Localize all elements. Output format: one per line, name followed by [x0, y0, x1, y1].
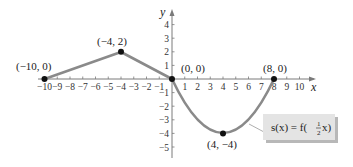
y-tick-label: −1 — [159, 88, 169, 98]
legend-leader-line — [249, 124, 264, 132]
y-tick-label: −2 — [159, 102, 169, 112]
x-tick-label: −9 — [52, 82, 62, 92]
x-tick-label: 7 — [259, 82, 264, 92]
x-tick-label: 3 — [208, 82, 213, 92]
legend-frac-den: 2 — [317, 129, 321, 137]
x-tick-label: −4 — [116, 82, 126, 92]
y-tick-label: −4 — [159, 129, 169, 139]
x-tick-label: −2 — [141, 82, 151, 92]
x-tick-label: 6 — [246, 82, 251, 92]
point-marker — [42, 76, 48, 82]
x-tick-label: −6 — [90, 82, 100, 92]
point-marker — [271, 76, 277, 82]
point-marker — [169, 76, 175, 82]
point-label-8-0: (8, 0) — [263, 62, 287, 75]
y-tick-label: 4 — [164, 20, 169, 30]
x-axis-label: x — [310, 80, 317, 94]
x-tick-label: −8 — [65, 82, 75, 92]
legend-suffix: x) — [322, 121, 332, 134]
legend-frac-num: 1 — [317, 120, 321, 128]
x-tick-label: 5 — [233, 82, 238, 92]
point-label-0-0: (0, 0) — [181, 62, 205, 75]
y-tick-label: −3 — [159, 115, 169, 125]
x-tick-label: 10 — [295, 82, 305, 92]
y-tick-label: 2 — [164, 47, 169, 57]
x-tick-label: 4 — [221, 82, 226, 92]
point-marker — [118, 49, 124, 55]
x-tick-label: −5 — [103, 82, 113, 92]
x-tick-label: 1 — [182, 82, 187, 92]
point-label-4-neg4: (4, −4) — [207, 138, 237, 151]
x-tick-label: 9 — [284, 82, 289, 92]
y-tick-label: −5 — [159, 143, 169, 153]
x-tick-label: −7 — [78, 82, 88, 92]
point-label-neg4-2: (−4, 2) — [97, 35, 127, 48]
y-axis-arrow-icon — [170, 9, 175, 16]
graph-canvas: −10−9−8−7−6−5−4−3−2−112345678910 4321−1−… — [0, 0, 353, 167]
point-marker — [220, 130, 226, 136]
x-tick-label: −3 — [129, 82, 139, 92]
y-tick-label: 1 — [164, 61, 169, 71]
x-tick-label: 2 — [195, 82, 200, 92]
legend-prefix: s(x) = f( — [271, 121, 307, 134]
point-label-neg10-0: (−10, 0) — [16, 60, 52, 73]
y-tick-label: 3 — [164, 34, 169, 44]
y-axis-label: y — [159, 5, 166, 19]
x-tick-label: −10 — [37, 82, 52, 92]
